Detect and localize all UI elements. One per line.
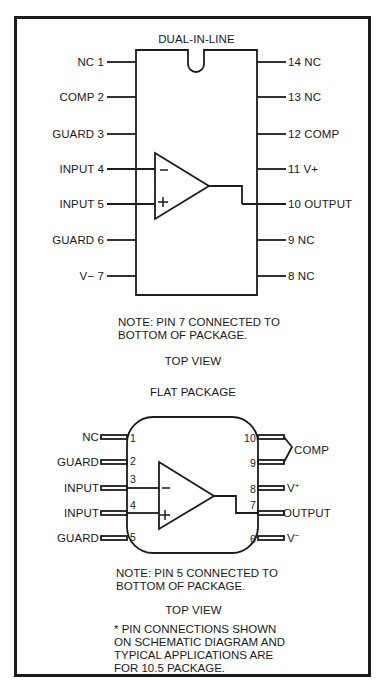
flat-pin-8-num: 8 (236, 483, 256, 495)
flat-pin-10-num: 10 (236, 432, 256, 444)
flat-pin-3-num: 3 (130, 473, 136, 485)
dip-pin-13-label: 13 NC (288, 91, 321, 103)
dip-pin-10-label: 10 OUTPUT (288, 198, 352, 210)
flat-pin-3-name: INPUT (20, 482, 99, 494)
flat-pin-4-name: INPUT (20, 507, 99, 519)
dip-pin-2-label: COMP 2 (20, 91, 104, 103)
dip-pin-8-label: 8 NC (288, 270, 315, 282)
dip-opamp-triangle (155, 153, 209, 219)
dip-pin-1-label: NC 1 (20, 56, 104, 68)
flat-pin-9-num: 9 (236, 457, 256, 469)
dip-pin-3-label: GUARD 3 (20, 128, 104, 140)
flat-note: NOTE: PIN 5 CONNECTED TO BOTTOM OF PACKA… (116, 567, 296, 593)
flat-pin-2-num: 2 (130, 455, 136, 467)
flat-vplus-label: V+ (287, 482, 300, 494)
dip-note: NOTE: PIN 7 CONNECTED TO BOTTOM OF PACKA… (118, 316, 298, 342)
flat-opamp-triangle (159, 462, 214, 529)
dip-pin-4-label: INPUT 4 (20, 163, 104, 175)
dip-title: DUAL-IN-LINE (136, 33, 257, 45)
flat-pin-5-num: 5 (130, 531, 136, 543)
flat-pin-1-num: 1 (130, 432, 136, 444)
flat-pin-1-name: NC (20, 431, 99, 443)
dip-pin-7-label: V− 7 (20, 270, 104, 282)
dip-pin-11-label: 11 V+ (288, 163, 318, 175)
flat-pin-2-name: GUARD (20, 456, 99, 468)
flat-pin-7-num: 7 (236, 499, 256, 511)
dip-pin-5-label: INPUT 5 (20, 198, 104, 210)
dip-pin-9-label: 9 NC (288, 234, 315, 246)
flat-output-label: OUTPUT (283, 507, 331, 519)
footnote: * PIN CONNECTIONS SHOWN ON SCHEMATIC DIA… (114, 623, 294, 675)
flat-pin-5-name: GUARD (20, 532, 99, 544)
flat-title: FLAT PACKAGE (118, 386, 268, 398)
flat-pin-6-num: 6 (236, 533, 256, 545)
flat-vminus-label: V− (287, 532, 300, 544)
flat-view-label: TOP VIEW (116, 604, 271, 616)
dip-view-label: TOP VIEW (118, 355, 268, 367)
dip-pin-14-label: 14 NC (288, 56, 321, 68)
flat-pin-4-num: 4 (130, 499, 136, 511)
dip-pin-12-label: 12 COMP (288, 128, 339, 140)
dip-pin-6-label: GUARD 6 (20, 234, 104, 246)
flat-comp-label: COMP (294, 444, 329, 456)
